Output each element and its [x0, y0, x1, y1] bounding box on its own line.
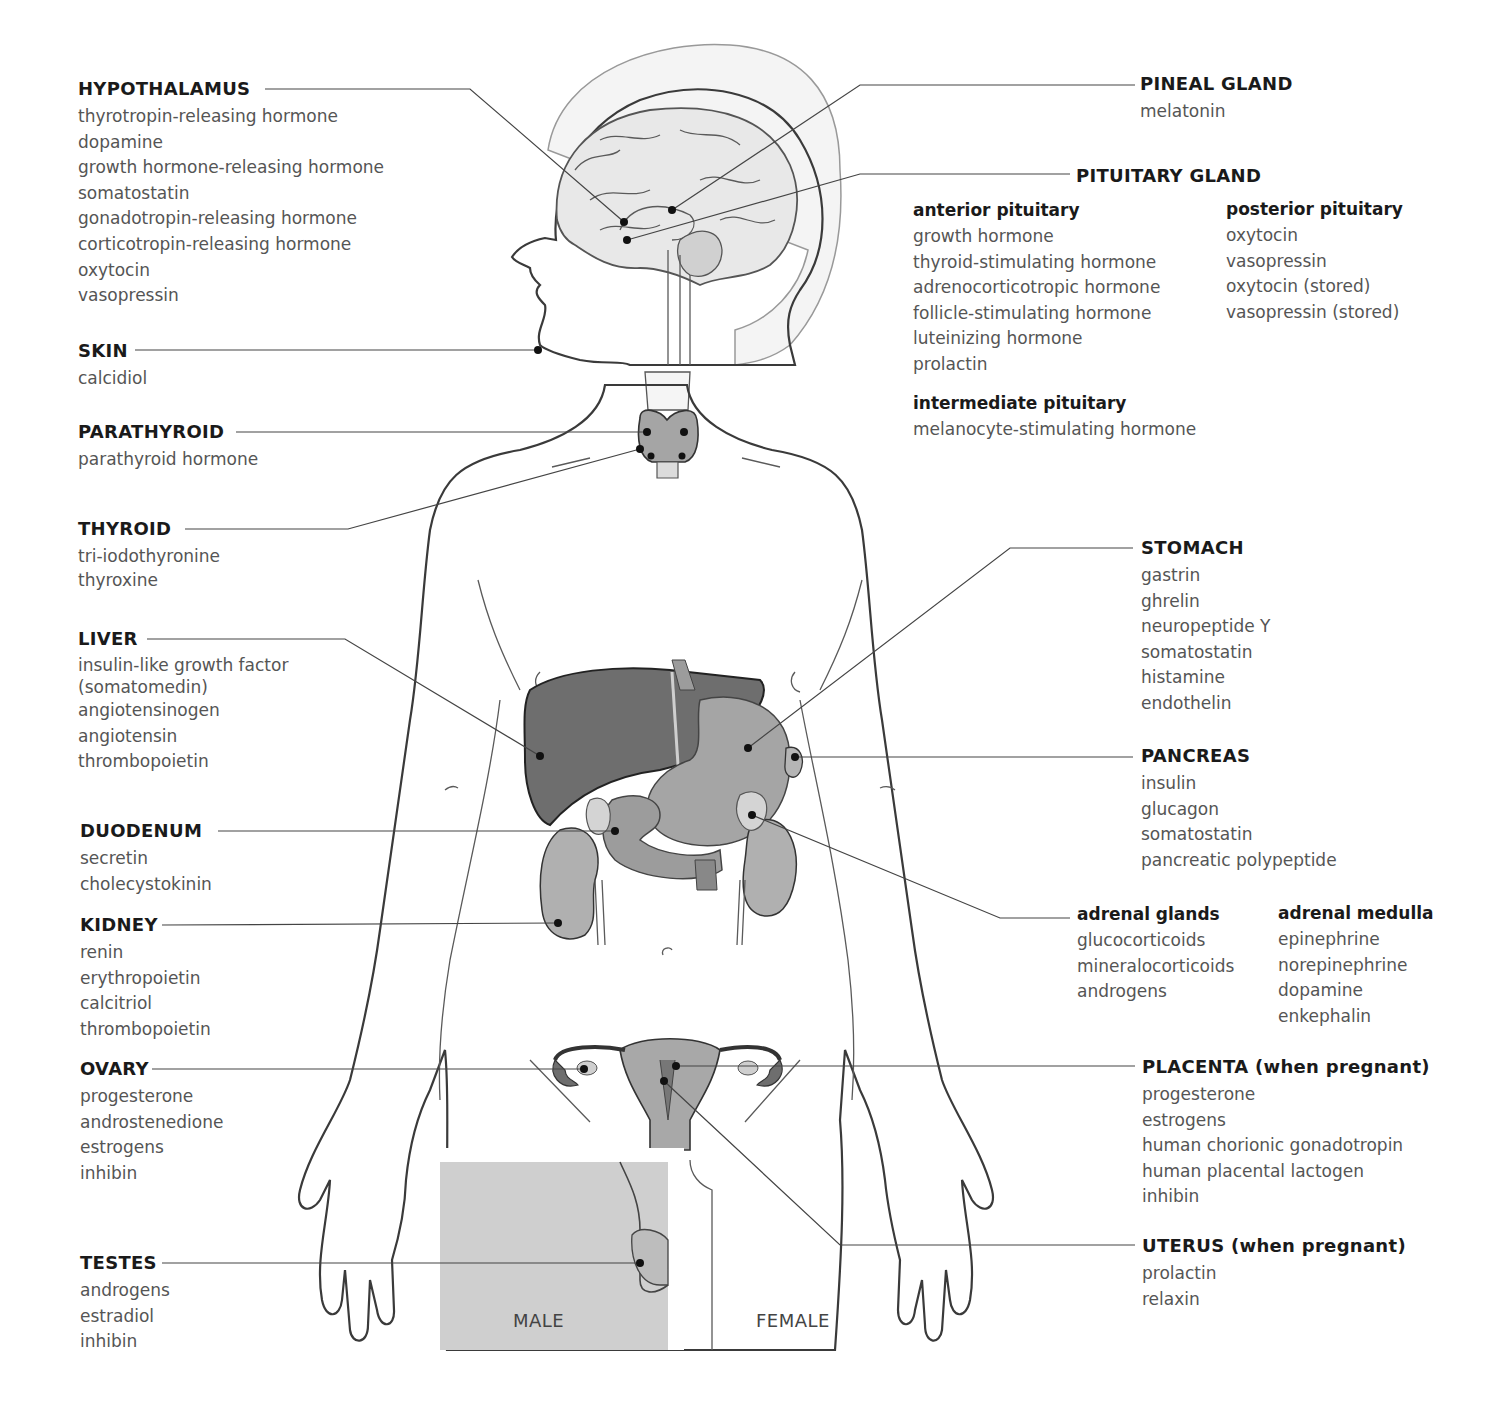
- posterior-pituitary: posterior pituitary oxytocin vasopressin…: [1226, 198, 1403, 325]
- hormone: thrombopoietin: [78, 749, 288, 775]
- gland-thyroid: THYROID tri-iodothyronine thyroxine: [78, 518, 220, 592]
- larynx: [645, 372, 690, 410]
- hormone: oxytocin: [78, 258, 384, 284]
- hormone: secretin: [80, 846, 212, 872]
- adrenal-medulla: adrenal medulla epinephrine norepinephri…: [1278, 902, 1434, 1029]
- hormone: inhibin: [80, 1329, 170, 1355]
- hormone: androgens: [80, 1278, 170, 1304]
- hormone: estrogens: [80, 1135, 223, 1161]
- gland-name: UTERUS (when pregnant): [1142, 1235, 1406, 1257]
- hormone: gonadotropin-releasing hormone: [78, 206, 384, 232]
- hormone: glucagon: [1141, 797, 1337, 823]
- anterior-pituitary: anterior pituitary growth hormone thyroi…: [913, 199, 1160, 378]
- gland-name: DUODENUM: [80, 820, 212, 842]
- gland-name: PINEAL GLAND: [1140, 73, 1293, 95]
- hormone: ghrelin: [1141, 589, 1271, 615]
- hormone: melanocyte-stimulating hormone: [913, 417, 1196, 443]
- hormone: dopamine: [78, 130, 384, 156]
- hormone: calcitriol: [80, 991, 211, 1017]
- hormone: endothelin: [1141, 691, 1271, 717]
- hormone: calcidiol: [78, 366, 147, 392]
- gland-name: KIDNEY: [80, 914, 211, 936]
- hormone: adrenocorticotropic hormone: [913, 275, 1160, 301]
- hormone: thrombopoietin: [80, 1017, 211, 1043]
- hormone: thyroxine: [78, 568, 220, 592]
- hormone: angiotensin: [78, 724, 288, 750]
- kidney-right: [540, 828, 598, 939]
- gland-kidney: KIDNEY renin erythropoietin calcitriol t…: [80, 914, 211, 1042]
- gland-name: HYPOTHALAMUS: [78, 78, 384, 100]
- gland-name: LIVER: [78, 628, 288, 650]
- adrenal-glands: adrenal glands glucocorticoids mineraloc…: [1077, 903, 1234, 1005]
- hormone: norepinephrine: [1278, 953, 1434, 979]
- ovary-right: [553, 1060, 578, 1086]
- hormone: corticotropin-releasing hormone: [78, 232, 384, 258]
- hormone: somatostatin: [1141, 822, 1337, 848]
- hormone: insulin-like growth factor: [78, 654, 288, 676]
- hormone: human chorionic gonadotropin: [1142, 1133, 1430, 1159]
- hormone: androstenedione: [80, 1110, 223, 1136]
- subsection-name: intermediate pituitary: [913, 392, 1196, 414]
- hormone: epinephrine: [1278, 927, 1434, 953]
- hormone: inhibin: [1142, 1184, 1430, 1210]
- hormone: gastrin: [1141, 563, 1271, 589]
- hormone: insulin: [1141, 771, 1337, 797]
- hormone: progesterone: [80, 1084, 223, 1110]
- gland-pancreas: PANCREAS insulin glucagon somatostatin p…: [1141, 745, 1337, 873]
- gland-placenta: PLACENTA (when pregnant) progesterone es…: [1142, 1056, 1430, 1210]
- hormone: glucocorticoids: [1077, 928, 1234, 954]
- hormone: parathyroid hormone: [78, 447, 258, 473]
- subsection-name: adrenal medulla: [1278, 902, 1434, 924]
- gland-testes: TESTES androgens estradiol inhibin: [80, 1252, 170, 1355]
- aorta: [695, 860, 717, 890]
- kidney-left: [743, 820, 796, 916]
- gland-duodenum: DUODENUM secretin cholecystokinin: [80, 820, 212, 897]
- gland-name: PARATHYROID: [78, 421, 258, 443]
- gland-hypothalamus: HYPOTHALAMUS thyrotropin-releasing hormo…: [78, 78, 384, 309]
- brain: [557, 108, 797, 285]
- hormone: thyroid-stimulating hormone: [913, 250, 1160, 276]
- male-label: MALE: [513, 1310, 564, 1331]
- gland-pineal: PINEAL GLAND melatonin: [1140, 73, 1293, 125]
- hormone: neuropeptide Y: [1141, 614, 1271, 640]
- hormone: tri-iodothyronine: [78, 544, 220, 568]
- gland-liver: LIVER insulin-like growth factor (somato…: [78, 628, 288, 775]
- hormone: renin: [80, 940, 211, 966]
- hormone: enkephalin: [1278, 1004, 1434, 1030]
- gland-parathyroid: PARATHYROID parathyroid hormone: [78, 421, 258, 473]
- adrenal-right: [586, 798, 610, 834]
- hormone: vasopressin: [1226, 249, 1403, 275]
- subsection-name: posterior pituitary: [1226, 198, 1403, 220]
- hormone: (somatomedin): [78, 676, 288, 698]
- hormone: oxytocin (stored): [1226, 274, 1403, 300]
- trachea: [657, 462, 678, 478]
- gland-name: OVARY: [80, 1058, 223, 1080]
- gland-name: THYROID: [78, 518, 220, 540]
- female-label: FEMALE: [756, 1310, 830, 1331]
- hormone: histamine: [1141, 665, 1271, 691]
- hormone: luteinizing hormone: [913, 326, 1160, 352]
- hormone: vasopressin: [78, 283, 384, 309]
- intermediate-pituitary: intermediate pituitary melanocyte-stimul…: [913, 392, 1196, 443]
- gland-name: PLACENTA (when pregnant): [1142, 1056, 1430, 1078]
- hormone: thyrotropin-releasing hormone: [78, 104, 384, 130]
- hormone: prolactin: [913, 352, 1160, 378]
- hormone: erythropoietin: [80, 966, 211, 992]
- subsection-name: anterior pituitary: [913, 199, 1160, 221]
- hormone: growth hormone-releasing hormone: [78, 155, 384, 181]
- subsection-name: adrenal glands: [1077, 903, 1234, 925]
- gland-pituitary-title: PITUITARY GLAND: [1076, 165, 1261, 191]
- gland-ovary: OVARY progesterone androstenedione estro…: [80, 1058, 223, 1186]
- hormone: pancreatic polypeptide: [1141, 848, 1337, 874]
- hormone: progesterone: [1142, 1082, 1430, 1108]
- hormone: human placental lactogen: [1142, 1159, 1430, 1185]
- gland-name: STOMACH: [1141, 537, 1271, 559]
- hormone: estrogens: [1142, 1108, 1430, 1134]
- hormone: follicle-stimulating hormone: [913, 301, 1160, 327]
- gland-uterus: UTERUS (when pregnant) prolactin relaxin: [1142, 1235, 1406, 1312]
- pancreas: [785, 747, 802, 777]
- hormone: angiotensinogen: [78, 698, 288, 724]
- gland-stomach: STOMACH gastrin ghrelin neuropeptide Y s…: [1141, 537, 1271, 717]
- hormone: dopamine: [1278, 978, 1434, 1004]
- hormone: androgens: [1077, 979, 1234, 1005]
